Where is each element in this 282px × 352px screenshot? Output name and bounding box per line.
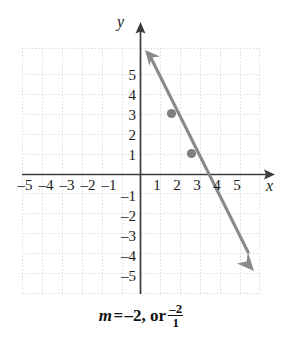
plotted-line (150, 56, 248, 252)
caption-or: or (150, 306, 166, 325)
x-tick-label-4: 4 (210, 178, 224, 193)
fraction-numerator: –2 (168, 302, 183, 316)
data-point (187, 149, 196, 158)
plotted-line-group (0, 0, 282, 352)
caption-variable: m (99, 306, 112, 325)
y-tick-label-3: 3 (112, 108, 136, 123)
x-tick-label-neg5: –5 (14, 178, 36, 193)
line-arrowhead-down (237, 252, 254, 271)
caption-value: –2, (125, 306, 146, 325)
x-tick-label-neg4: –4 (35, 178, 57, 193)
x-tick-label-neg2: –2 (77, 178, 99, 193)
y-tick-label-neg1: –1 (112, 189, 136, 204)
x-tick-label-neg3: –3 (56, 178, 78, 193)
y-tick-label-neg4: –4 (112, 249, 136, 264)
graph-figure: y x –5 –4 –3 –2 –1 1 2 3 4 5 5 4 3 2 1 –… (0, 0, 282, 352)
y-axis-label: y (117, 14, 124, 30)
x-axis-label: x (266, 178, 273, 194)
x-tick-label-2: 2 (170, 178, 184, 193)
y-tick-label-neg5: –5 (112, 269, 136, 284)
x-tick-label-5: 5 (230, 178, 244, 193)
slope-caption: m = –2, or–21 (0, 303, 282, 331)
fraction-denominator: 1 (168, 316, 183, 329)
y-tick-label-neg2: –2 (112, 209, 136, 224)
y-tick-label-4: 4 (112, 88, 136, 103)
y-tick-label-1: 1 (112, 148, 136, 163)
data-point (167, 109, 176, 118)
slope-fraction: –21 (168, 302, 183, 330)
y-tick-label-2: 2 (112, 128, 136, 143)
y-tick-label-neg3: –3 (112, 229, 136, 244)
x-tick-label-1: 1 (150, 178, 164, 193)
x-tick-label-3: 3 (190, 178, 204, 193)
caption-equals: = (114, 306, 124, 325)
y-tick-label-5: 5 (112, 68, 136, 83)
